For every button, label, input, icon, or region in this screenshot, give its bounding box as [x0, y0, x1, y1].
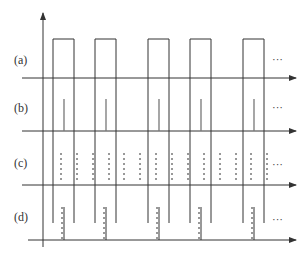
row-c-dashed-lines — [61, 153, 267, 181]
row-d-markers — [62, 207, 254, 240]
timing-diagram-graphic — [0, 0, 308, 261]
ellipsis-c: ··· — [272, 159, 283, 170]
row-label-b: (b) — [14, 102, 28, 114]
ellipsis-b: ··· — [272, 102, 283, 113]
ellipsis-d: ··· — [272, 214, 283, 225]
timing-diagram: (a) (b) (c) (d) ··· ··· ··· ··· — [0, 0, 308, 261]
row-label-d: (d) — [14, 211, 28, 223]
row-label-a: (a) — [14, 54, 27, 66]
row-b-spikes — [64, 99, 254, 131]
ellipsis-a: ··· — [272, 54, 283, 65]
row-label-c: (c) — [14, 157, 27, 169]
